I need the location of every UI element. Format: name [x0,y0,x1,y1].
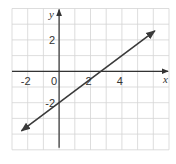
x-tick-label: 2 [85,75,91,87]
y-tick-label: -2 [45,97,55,109]
y-axis-label: y [48,8,54,20]
x-tick-label: -2 [21,75,31,87]
x-axis-label: x [162,73,168,85]
y-tick-label: 2 [49,34,55,46]
x-tick-label: 0 [51,75,57,87]
labels: x y -20242-2 [21,8,168,109]
x-tick-label: 4 [117,75,123,87]
chart: x y -20242-2 [0,0,176,164]
